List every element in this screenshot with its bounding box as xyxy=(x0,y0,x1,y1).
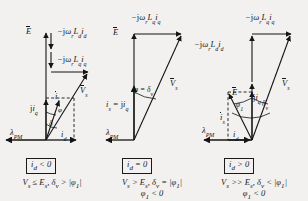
phasor-panel-id-zero: E −jωrLqiq Vs is = jiq φ = δv λPM id = 0… xyxy=(104,0,200,201)
angle-arc-outer xyxy=(232,113,270,118)
label-jiq: jiq xyxy=(253,93,261,102)
label-drop-d: −jωrLdid xyxy=(57,27,87,36)
caption-panel-2-line-2: φ1 < 0 xyxy=(100,188,204,201)
label-is-eq: is = jiq xyxy=(106,100,128,109)
label-is: is xyxy=(55,92,60,101)
vector-vs xyxy=(46,74,87,140)
caption-panel-3-line-2: φ1 < 0 xyxy=(200,188,308,201)
label-drop-d: −jωrLdid xyxy=(194,40,224,49)
label-angle-phi1: φ1 xyxy=(236,101,243,109)
label-lambda-pm: λPM xyxy=(202,126,214,135)
label-lambda-pm: λPM xyxy=(106,128,118,137)
label-jiq: jiq xyxy=(30,104,38,113)
caption-panel-1: Vs ≤ Es, δv > |φ1| xyxy=(2,177,102,190)
label-id: id xyxy=(61,130,66,139)
phasor-panel-id-positive: E −jωrLdid −jωrLqiq Vs jiq is id λPM φ1 … xyxy=(200,0,308,201)
label-id: id xyxy=(233,130,238,139)
label-vs: Vs xyxy=(80,86,88,95)
condition-box-panel-1: id < 0 xyxy=(26,158,56,174)
label-drop-q: −jωrLqiq xyxy=(245,13,275,22)
label-angle-phi-delta: φ = δv xyxy=(134,86,153,94)
label-drop-q: −jωrLqiq xyxy=(131,13,161,22)
label-angle-phi: φ xyxy=(58,107,62,114)
label-is: is xyxy=(220,113,225,122)
label-vs: Vs xyxy=(170,79,178,88)
label-emf: E xyxy=(26,27,31,36)
label-emf: E xyxy=(113,28,118,37)
condition-box-panel-2: id = 0 xyxy=(122,158,152,174)
condition-text-1: id < 0 xyxy=(31,159,51,169)
condition-box-panel-3: id > 0 xyxy=(224,158,254,174)
label-angle-delta: δ xyxy=(49,120,53,128)
label-vs: Vs xyxy=(282,79,290,88)
phasor-panel-id-negative: E −jωrLdid −jωrLqiq Vs jiq is id λPM δ φ… xyxy=(0,0,104,201)
vector-vs xyxy=(252,36,290,140)
label-drop-q: −jωrLqiq xyxy=(57,55,87,64)
label-lambda-pm: λPM xyxy=(10,128,22,137)
figure-canvas: E −jωrLdid −jωrLqiq Vs jiq is id λPM δ φ… xyxy=(0,0,308,201)
label-emf: E xyxy=(232,88,237,97)
label-angle-delta-v: δv xyxy=(262,100,268,108)
